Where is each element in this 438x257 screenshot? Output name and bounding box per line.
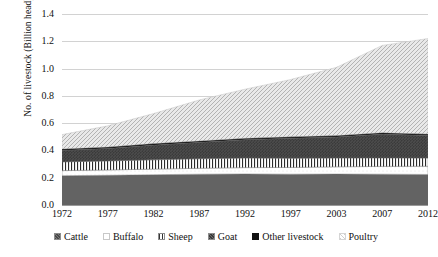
legend-item-goat[interactable]: Goat xyxy=(208,231,237,242)
x-tick-label: 2007 xyxy=(372,208,392,220)
legend-label: Cattle xyxy=(64,231,88,242)
legend-swatch-icon xyxy=(54,233,61,240)
y-tick-label: 1.2 xyxy=(42,36,55,46)
area-series-poultry xyxy=(62,39,428,149)
legend-item-cattle[interactable]: Cattle xyxy=(54,231,88,242)
legend-item-poultry[interactable]: Poultry xyxy=(339,231,378,242)
y-axis-tick-labels: 0.00.20.40.60.81.01.21.4 xyxy=(0,0,60,205)
legend-label: Other livestock xyxy=(262,231,323,242)
x-tick-label: 1982 xyxy=(144,208,164,220)
legend-label: Sheep xyxy=(168,231,192,242)
area-series-cattle xyxy=(62,174,428,205)
stacked-areas xyxy=(62,14,428,205)
chart-legend: CattleBuffaloSheepGoatOther livestockPou… xyxy=(0,231,432,242)
legend-label: Poultry xyxy=(349,231,378,242)
y-tick-label: 0.4 xyxy=(42,145,55,155)
x-tick-label: 1977 xyxy=(98,208,118,220)
legend-item-buffalo[interactable]: Buffalo xyxy=(103,231,143,242)
plot-area xyxy=(62,14,428,205)
y-tick-label: 1.4 xyxy=(42,9,55,19)
legend-swatch-icon xyxy=(252,233,259,240)
legend-label: Buffalo xyxy=(113,231,143,242)
y-tick-label: 1.0 xyxy=(42,64,55,74)
x-tick-label: 2003 xyxy=(327,208,347,220)
legend-item-sheep[interactable]: Sheep xyxy=(158,231,192,242)
y-tick-label: 0.8 xyxy=(42,91,55,101)
x-tick-label: 1972 xyxy=(52,208,72,220)
x-tick-label: 2012 xyxy=(418,208,438,220)
legend-swatch-icon xyxy=(339,233,346,240)
x-tick-label: 1992 xyxy=(235,208,255,220)
y-tick-label: 0.2 xyxy=(42,173,55,183)
legend-item-other-livestock[interactable]: Other livestock xyxy=(252,231,323,242)
y-tick-label: 0.6 xyxy=(42,118,55,128)
legend-swatch-icon xyxy=(158,233,165,240)
legend-label: Goat xyxy=(218,231,237,242)
x-tick-label: 1997 xyxy=(281,208,301,220)
gridline xyxy=(62,205,428,206)
legend-swatch-icon xyxy=(103,233,110,240)
x-axis-tick-labels: 197219771982198719921997200320072012 xyxy=(62,208,428,224)
legend-swatch-icon xyxy=(208,233,215,240)
x-tick-label: 1987 xyxy=(189,208,209,220)
